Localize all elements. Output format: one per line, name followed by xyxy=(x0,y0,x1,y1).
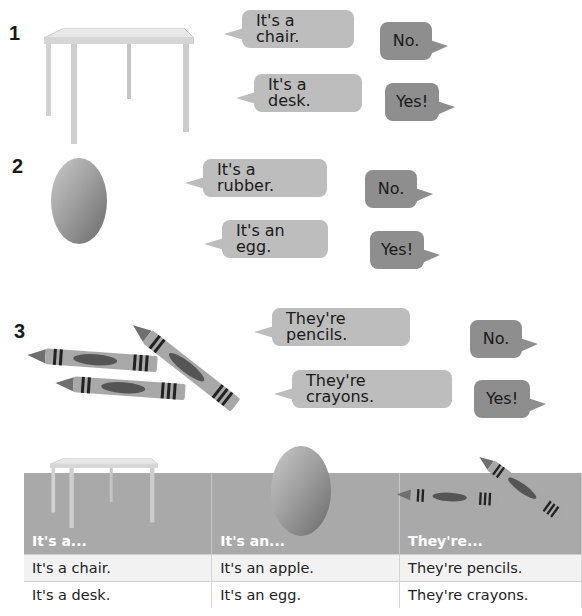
table-cell: They're crayons. xyxy=(400,582,582,609)
table-cell: They're pencils. xyxy=(400,555,582,582)
table-row: It's a desk. It's an egg. They're crayon… xyxy=(24,582,582,609)
question-bubble-wrong: It's a rubber. xyxy=(203,159,327,197)
table-row: It's a chair. It's an apple. They're pen… xyxy=(24,555,582,582)
question-bubble-right: It's an egg. xyxy=(222,220,328,258)
table-crayons-image xyxy=(395,450,582,530)
crayons-image xyxy=(20,315,260,425)
answer-bubble-yes: Yes! xyxy=(385,83,439,121)
answer-bubble-no: No. xyxy=(365,170,417,208)
question-bubble-right: They're crayons. xyxy=(292,370,452,408)
exercise-number: 2 xyxy=(12,155,23,178)
answer-bubble-yes: Yes! xyxy=(474,380,530,418)
answer-bubble-yes: Yes! xyxy=(370,231,424,269)
table-cell: It's an egg. xyxy=(212,582,400,609)
table-desk-image xyxy=(50,458,170,528)
exercise-number: 1 xyxy=(9,22,20,45)
table-egg-image xyxy=(268,443,338,539)
question-bubble-wrong: It's a chair. xyxy=(242,10,354,48)
table-cell: It's a chair. xyxy=(24,555,212,582)
question-bubble-right: It's a desk. xyxy=(254,74,362,112)
egg-image xyxy=(48,156,110,246)
question-bubble-wrong: They're pencils. xyxy=(272,308,410,346)
answer-bubble-no: No. xyxy=(380,22,432,60)
table-header: It's a... xyxy=(24,528,212,555)
desk-image xyxy=(44,28,199,148)
answer-bubble-no: No. xyxy=(470,320,522,358)
table-header: They're... xyxy=(400,528,582,555)
table-cell: It's an apple. xyxy=(212,555,400,582)
table-cell: It's a desk. xyxy=(24,582,212,609)
